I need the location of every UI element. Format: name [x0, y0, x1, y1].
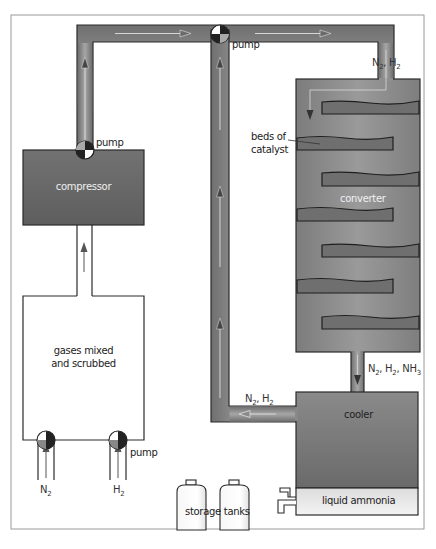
- mixer-label-line2: and scrubbed: [23, 358, 144, 369]
- flow-label-to-converter: N2, H2: [372, 57, 401, 71]
- cooler-label: cooler: [344, 409, 373, 420]
- flow-label-recycle: N2, H2: [245, 393, 274, 407]
- converter-to-cooler-pipe: [351, 351, 364, 393]
- storage-tanks-label: storage tanks: [185, 506, 250, 517]
- pump-compressor-icon: [76, 141, 94, 159]
- compressor-label: compressor: [23, 181, 144, 192]
- pump-label: pump: [96, 137, 124, 148]
- beds-label-line2: catalyst: [251, 144, 288, 155]
- pump-recycle-icon: [211, 25, 229, 43]
- liquid-ammonia-label: liquid ammonia: [322, 495, 395, 506]
- input-h2-label: H2: [113, 484, 124, 498]
- beds-label-line1: beds of: [251, 131, 286, 142]
- input-n2-label: N2: [40, 484, 51, 498]
- haber-process-diagram: [0, 0, 436, 549]
- pump-n2-icon: [37, 431, 55, 449]
- pump-label: pump: [232, 39, 260, 50]
- mixer-label-line1: gases mixed: [23, 345, 144, 356]
- converter-label: converter: [340, 193, 386, 204]
- pump-h2-icon: [109, 431, 127, 449]
- flow-label-to-cooler: N2, H2, NH3: [368, 363, 421, 377]
- pump-label: pump: [130, 447, 158, 458]
